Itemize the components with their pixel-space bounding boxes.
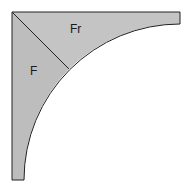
label-f: F — [30, 64, 37, 78]
corner-diagram: Fr F — [0, 0, 190, 187]
label-fr: Fr — [70, 22, 81, 36]
